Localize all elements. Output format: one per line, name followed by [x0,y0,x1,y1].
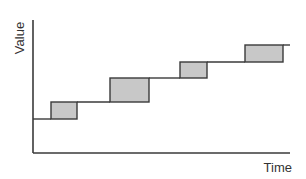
step-box-1 [51,102,77,119]
step-box-3 [180,62,207,78]
x-axis-label: Time [264,160,292,175]
step-diagram: Value Time [0,0,306,179]
step-boxes [51,45,283,119]
step-box-4 [245,45,283,62]
y-axis-label: Value [12,22,27,54]
step-box-2 [110,78,149,102]
